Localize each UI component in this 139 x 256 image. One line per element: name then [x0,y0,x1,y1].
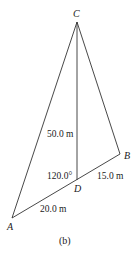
segment-ca [12,22,77,218]
length-label-db: 15.0 m [97,172,123,182]
length-label-cd: 50.0 m [47,130,73,140]
point-label-c: C [73,9,80,19]
point-label-d: D [74,184,81,194]
point-label-a: A [7,222,13,232]
point-label-b: B [124,151,130,161]
length-label-ad: 20.0 m [40,205,66,215]
figure-caption: (b) [59,236,71,246]
segment-cb [77,22,120,154]
triangle-diagram: C B D A 50.0 m 120.0° 15.0 m 20.0 m (b) [0,0,139,256]
angle-label-cda: 120.0° [47,172,72,182]
diagram-lines [0,0,139,256]
